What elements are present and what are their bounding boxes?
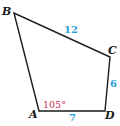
side-length-cd: 6: [110, 78, 117, 89]
vertex-label-b: B: [1, 5, 11, 18]
vertex-label-d: D: [104, 109, 115, 122]
quadrilateral-diagram: A B C D 12 6 7 105°: [0, 0, 120, 126]
vertex-label-a: A: [28, 108, 38, 121]
side-length-ad: 7: [69, 112, 76, 123]
side-length-bc: 12: [64, 24, 78, 35]
angle-label-a: 105°: [43, 99, 66, 110]
quadrilateral-abcd: [14, 13, 110, 111]
vertex-label-c: C: [108, 44, 117, 57]
